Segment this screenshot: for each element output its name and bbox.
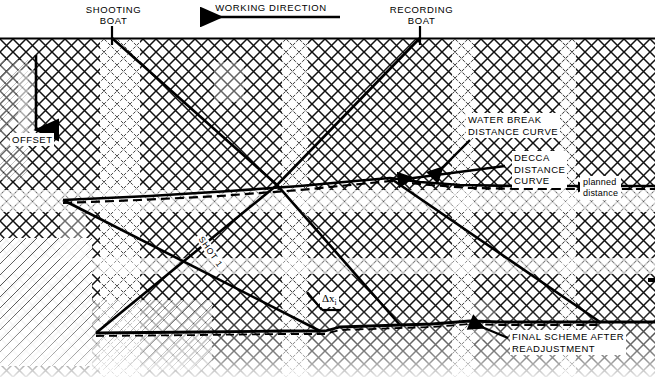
delta-x-symbol: Δx (322, 292, 335, 304)
decca-distance-curve-label: DECCA DISTANCE CURVE (512, 151, 567, 188)
recording-boat-label: RECORDING BOAT (374, 4, 469, 26)
working-direction-label: WORKING DIRECTION (196, 2, 346, 13)
shooting-boat-label: SHOOTING BOAT (66, 4, 161, 26)
diagram-canvas (0, 0, 655, 382)
final-scheme-label: FINAL SCHEME AFTER READJUSTMENT (510, 330, 626, 355)
planned-distance-label: planned distance (580, 176, 621, 200)
edge-mark (648, 278, 655, 282)
delta-x-label: Δxi (320, 292, 339, 307)
water-break-distance-curve-label: WATER BREAK DISTANCE CURVE (466, 113, 560, 138)
crosshatch-band (0, 39, 655, 377)
offset-label: OFFSET (10, 133, 54, 146)
delta-x-subscript: i (335, 298, 337, 307)
figure-root: SHOOTING BOAT RECORDING BOAT WORKING DIR… (0, 0, 655, 382)
